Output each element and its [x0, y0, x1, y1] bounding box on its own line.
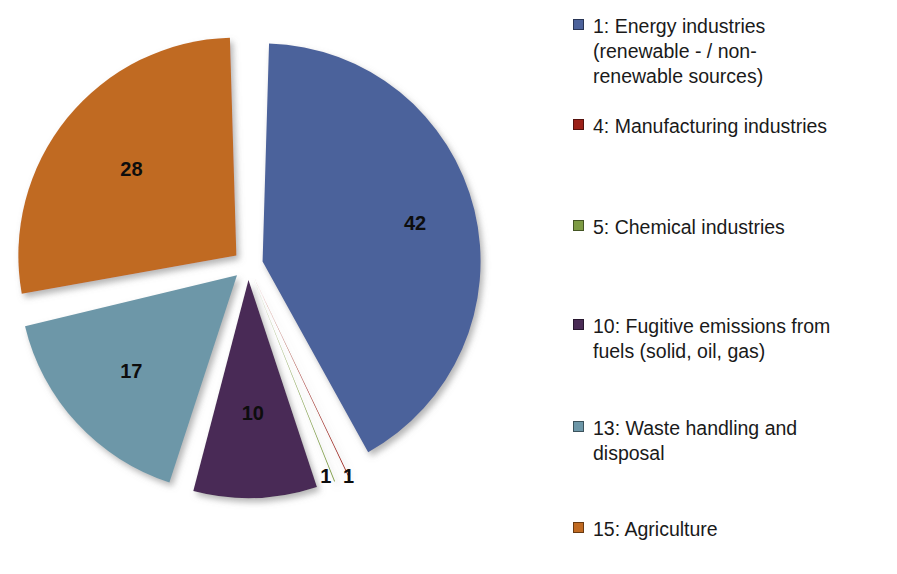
- legend-item-agriculture[interactable]: 15: Agriculture: [573, 517, 893, 542]
- legend-item-label: 10: Fugitive emissions from fuels (solid…: [593, 314, 830, 364]
- legend-swatch-icon: [573, 319, 584, 330]
- pie-slice-label-waste-handling: 17: [120, 360, 142, 382]
- legend-swatch-icon: [573, 119, 584, 130]
- legend-swatch-icon: [573, 19, 584, 30]
- legend-swatch-icon: [573, 522, 584, 533]
- legend-swatch-icon: [573, 220, 584, 231]
- legend-item-label: 4: Manufacturing industries: [593, 114, 827, 139]
- legend-swatch-icon: [573, 421, 584, 432]
- pie-slice-label-fugitive-emissions: 10: [242, 402, 264, 424]
- pie-slice-energy-industries[interactable]: [263, 44, 481, 453]
- pie-plot-area: 4211101728: [0, 0, 560, 574]
- legend-item-manufacturing-industries[interactable]: 4: Manufacturing industries: [573, 114, 893, 139]
- legend-item-label: 5: Chemical industries: [593, 215, 785, 240]
- legend-item-fugitive-emissions[interactable]: 10: Fugitive emissions from fuels (solid…: [573, 314, 893, 364]
- pie-svg: 4211101728: [0, 0, 560, 574]
- pie-slices-group: [18, 38, 480, 498]
- pie-slice-label-agriculture: 28: [120, 158, 142, 180]
- legend-item-label: 13: Waste handling and disposal: [593, 416, 797, 466]
- legend-item-chemical-industries[interactable]: 5: Chemical industries: [573, 215, 893, 240]
- chart-legend: 1: Energy industries (renewable - / non-…: [573, 0, 897, 574]
- legend-item-label: 1: Energy industries (renewable - / non-…: [593, 14, 765, 89]
- pie-slice-label-energy-industries: 42: [404, 212, 426, 234]
- pie-slice-label-manufacturing-industries: 1: [343, 465, 354, 487]
- legend-item-label: 15: Agriculture: [593, 517, 718, 542]
- pie-slice-label-chemical-industries: 1: [320, 465, 331, 487]
- legend-item-energy-industries[interactable]: 1: Energy industries (renewable - / non-…: [573, 14, 893, 89]
- legend-item-waste-handling[interactable]: 13: Waste handling and disposal: [573, 416, 893, 466]
- pie-chart-figure: 4211101728 1: Energy industries (renewab…: [0, 0, 897, 574]
